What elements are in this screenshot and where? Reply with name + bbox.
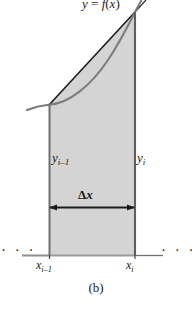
delta-x-variable: x <box>86 187 93 202</box>
right-ordinate-label-subscript: i <box>143 157 145 167</box>
figure-graphics <box>0 0 192 309</box>
trapezoid-shaded-region <box>49 12 135 255</box>
function-label: y = f(x) <box>82 0 120 10</box>
right-abscissa-label-subscript: i <box>131 265 133 274</box>
left-ordinate-label-base: y <box>52 150 58 165</box>
left-ordinate-label-subscript: i–1 <box>58 157 69 167</box>
left-ordinate-label: yi–1 <box>52 151 69 164</box>
axis-ellipsis-left: · · · <box>1 243 36 258</box>
function-label-paren-close: ) <box>115 0 119 11</box>
axis-ellipsis-right: · · · <box>161 243 192 258</box>
function-label-equals: = <box>88 0 102 11</box>
left-abscissa-label: xi–1 <box>36 259 52 271</box>
delta-x-label: Δx <box>78 188 93 201</box>
right-ordinate-label-base: y <box>137 150 143 165</box>
trapezoid-figure: y = f(x) yi–1 yi Δx xi–1 xi · · · · · · … <box>0 0 192 309</box>
left-abscissa-label-subscript: i–1 <box>41 265 51 274</box>
right-ordinate-label: yi <box>137 151 145 164</box>
right-abscissa-label: xi <box>126 259 134 271</box>
figure-caption: (b) <box>0 281 192 294</box>
delta-symbol: Δ <box>78 187 86 202</box>
